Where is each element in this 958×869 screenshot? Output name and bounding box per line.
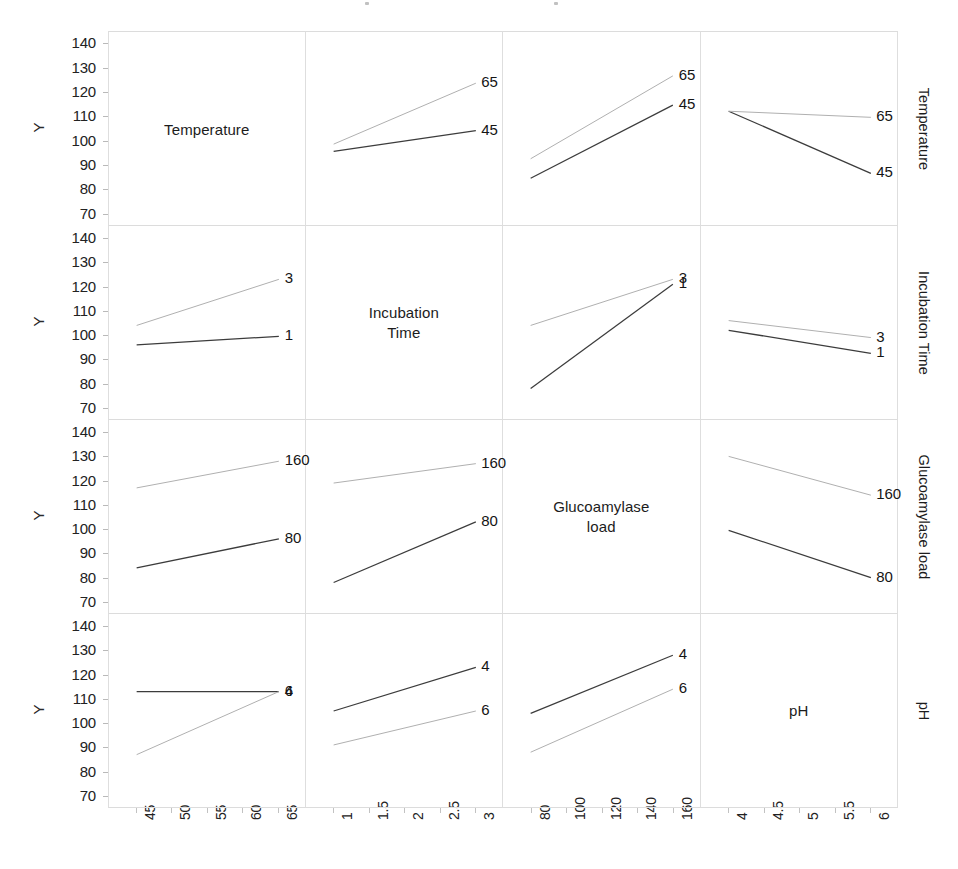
y-axis-tick-label: 80 <box>48 763 96 780</box>
panel-lines <box>701 420 899 614</box>
diagonal-panel: Glucoamylaseload <box>503 420 701 614</box>
x-axis-tick-mark <box>764 808 765 813</box>
y-axis-tick-label: 120 <box>48 83 96 100</box>
panel-lines <box>701 32 899 227</box>
series-line-6 <box>531 689 673 752</box>
x-axis-tick-label: 2 <box>410 812 426 820</box>
x-axis-tick-mark <box>404 808 405 813</box>
x-axis-tick-label: 6 <box>876 812 892 820</box>
y-axis-tick-label: 140 <box>48 423 96 440</box>
interaction-panel: 80160 <box>701 420 899 614</box>
x-axis-tick-mark <box>602 808 603 813</box>
interaction-panel: 4565 <box>306 31 504 226</box>
y-axis-label: Y <box>30 312 47 332</box>
x-axis-tick-mark <box>475 808 476 813</box>
x-axis-tick-mark <box>369 808 370 813</box>
diagonal-factor-name-line: Glucoamylase <box>503 497 700 517</box>
y-axis-tick-label: 100 <box>48 326 96 343</box>
x-axis-tick-mark <box>136 808 137 813</box>
interaction-panel: 4565 <box>503 31 701 226</box>
interaction-panel: 4565 <box>701 31 899 226</box>
y-axis-tick-label: 90 <box>48 156 96 173</box>
diagonal-factor-name-line: Incubation <box>306 303 503 323</box>
diagonal-factor-name-line: Time <box>306 323 503 343</box>
y-axis-tick-label: 90 <box>48 350 96 367</box>
series-line-4 <box>531 655 673 713</box>
series-line-45 <box>333 131 475 152</box>
series-line-1 <box>531 284 673 388</box>
x-axis-tick-mark <box>278 808 279 813</box>
row-factor-label-incubation-time: Incubation Time <box>916 271 932 375</box>
x-axis-tick-label: 5 <box>805 812 821 820</box>
series-line-80 <box>728 530 870 577</box>
interaction-panel: 46 <box>306 614 504 808</box>
diagonal-factor-name-line: pH <box>701 701 898 721</box>
x-axis-tick-mark <box>637 808 638 813</box>
y-axis-tick-label: 100 <box>48 132 96 149</box>
x-axis-tick-label: 3 <box>481 812 497 820</box>
y-axis-tick-label: 70 <box>48 399 96 416</box>
panel-lines <box>109 226 307 420</box>
series-line-4 <box>333 667 475 711</box>
y-axis-tick-label: 110 <box>48 107 96 124</box>
interaction-panel: 13 <box>108 226 306 420</box>
series-line-80 <box>333 522 475 583</box>
y-axis-tick-label: 70 <box>48 593 96 610</box>
y-axis-tick-label: 130 <box>48 253 96 270</box>
interaction-panel: 46 <box>108 614 306 808</box>
panel-lines <box>503 32 701 227</box>
diagonal-factor-name: pH <box>701 701 898 721</box>
series-line-3 <box>531 279 673 325</box>
y-axis-tick-label: 80 <box>48 180 96 197</box>
panel-lines <box>306 420 504 614</box>
series-line-6 <box>137 692 279 755</box>
diagonal-factor-name: IncubationTime <box>306 303 503 343</box>
panel-lines <box>503 614 701 808</box>
interaction-panel: 13 <box>701 226 899 420</box>
x-axis-tick-mark <box>242 808 243 813</box>
y-axis-tick-label: 110 <box>48 496 96 513</box>
x-axis-tick-mark <box>531 808 532 813</box>
interaction-plot-matrix: Y140130120110100908070Y14013012011010090… <box>0 0 958 869</box>
diagonal-factor-name-line: Temperature <box>109 120 305 140</box>
series-line-45 <box>728 111 870 173</box>
series-line-1 <box>728 330 870 353</box>
y-axis-tick-label: 110 <box>48 690 96 707</box>
series-line-80 <box>137 539 279 568</box>
y-axis-tick-label: 120 <box>48 666 96 683</box>
y-axis-tick-label: 130 <box>48 447 96 464</box>
y-axis-tick-label: 140 <box>48 34 96 51</box>
y-axis-tick-label: 90 <box>48 738 96 755</box>
row-factor-label-glucoamylase-load: Glucoamylase load <box>916 454 932 579</box>
y-axis-tick-label: 140 <box>48 229 96 246</box>
y-axis-label: Y <box>30 506 47 526</box>
diagonal-factor-name-line: load <box>503 517 700 537</box>
series-line-3 <box>137 279 279 325</box>
diagonal-panel: IncubationTime <box>306 226 504 420</box>
y-axis-tick-label: 90 <box>48 544 96 561</box>
x-axis-tick-mark <box>333 808 334 813</box>
scan-artifact <box>365 2 369 5</box>
diagonal-panel: pH <box>701 614 899 808</box>
y-axis-tick-label: 100 <box>48 714 96 731</box>
series-line-160 <box>728 456 870 495</box>
y-axis-tick-label: 70 <box>48 205 96 222</box>
series-line-160 <box>333 464 475 483</box>
diagonal-factor-name: Glucoamylaseload <box>503 497 700 537</box>
y-axis-tick-label: 80 <box>48 375 96 392</box>
y-axis-tick-label: 120 <box>48 472 96 489</box>
interaction-panel: 80160 <box>108 420 306 614</box>
x-axis-tick-mark <box>835 808 836 813</box>
plot-stage: Y140130120110100908070Y14013012011010090… <box>0 0 958 869</box>
y-axis-tick-label: 70 <box>48 787 96 804</box>
y-axis-label: Y <box>30 117 47 137</box>
panel-lines <box>701 226 899 420</box>
y-axis-tick-label: 130 <box>48 59 96 76</box>
panel-lines <box>306 32 504 227</box>
panel-lines <box>306 614 504 808</box>
series-line-3 <box>728 321 870 338</box>
series-line-65 <box>333 83 475 144</box>
scan-artifact <box>554 2 558 5</box>
x-axis-tick-mark <box>171 808 172 813</box>
row-factor-label-temperature: Temperature <box>916 87 932 170</box>
